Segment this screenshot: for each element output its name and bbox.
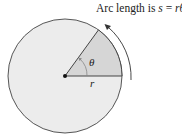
angle-label: θ bbox=[89, 56, 94, 68]
radius-label: r bbox=[90, 77, 94, 89]
circle-diagram bbox=[0, 0, 182, 139]
center-point bbox=[63, 74, 67, 78]
